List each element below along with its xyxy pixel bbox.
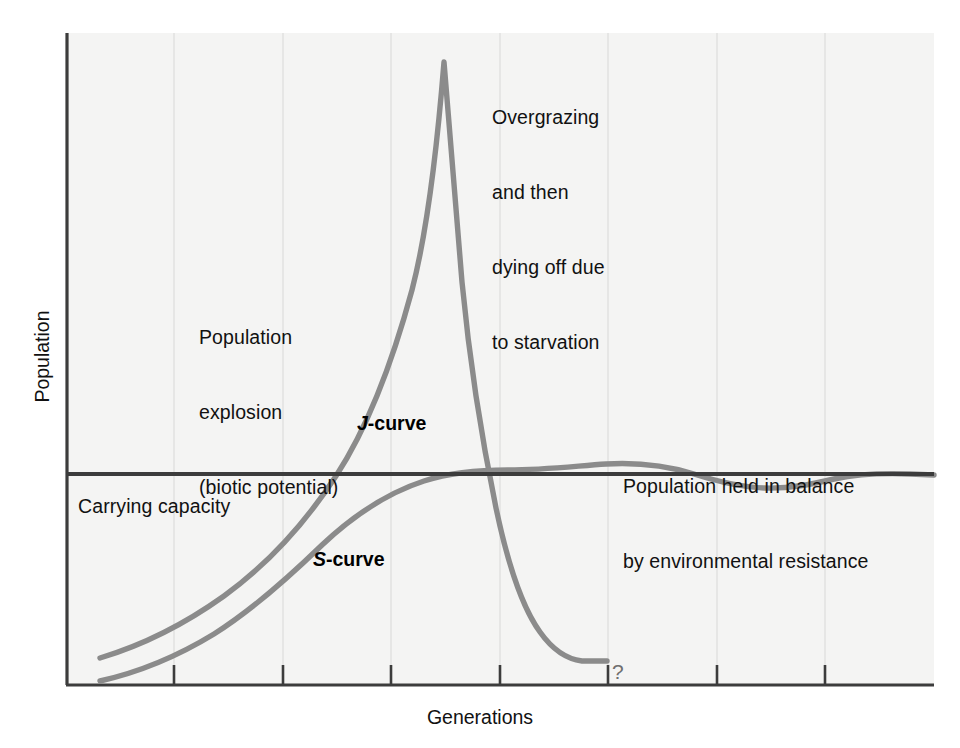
figure-canvas: Population Generations Overgrazing and t… <box>0 0 960 748</box>
label-s-curve-letter: S <box>313 548 326 570</box>
annotation-held-in-balance: Population held in balance by environmen… <box>623 424 869 624</box>
annotation-overgrazing-line3: dying off due <box>492 255 605 280</box>
annotation-overgrazing-line2: and then <box>492 180 605 205</box>
question-mark-annotation: ? <box>612 660 624 684</box>
annotation-held-in-balance-line1: Population held in balance <box>623 474 869 499</box>
annotation-carrying-capacity: Carrying capacity <box>78 494 230 519</box>
label-j-curve-rest: -curve <box>368 412 427 434</box>
label-j-curve-letter: J <box>357 412 368 434</box>
annotation-overgrazing-line1: Overgrazing <box>492 105 605 130</box>
y-axis-label: Population <box>31 297 54 417</box>
annotation-held-in-balance-line2: by environmental resistance <box>623 549 869 574</box>
annotation-overgrazing-line4: to starvation <box>492 330 605 355</box>
x-axis-ticks <box>174 665 825 685</box>
label-j-curve: J-curve <box>357 412 426 435</box>
label-s-curve: S-curve <box>313 548 385 571</box>
annotation-overgrazing: Overgrazing and then dying off due to st… <box>492 55 605 405</box>
label-s-curve-rest: -curve <box>326 548 385 570</box>
annotation-population-explosion-line2: explosion <box>199 400 338 425</box>
x-axis-label: Generations <box>0 706 960 729</box>
population-growth-chart <box>0 0 960 748</box>
annotation-population-explosion-line1: Population <box>199 325 338 350</box>
